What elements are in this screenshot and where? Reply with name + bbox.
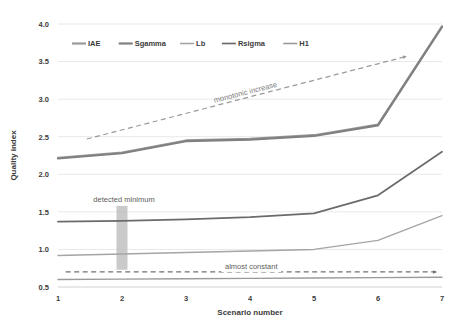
- x-tick-label: 1: [56, 294, 60, 303]
- y-tick-label: 2.5: [39, 133, 49, 142]
- detected-minimum-band: [117, 206, 128, 270]
- legend-label: IAE: [88, 39, 101, 48]
- y-tick-label: 3.0: [39, 95, 49, 104]
- y-axis-title: Quality index: [9, 130, 18, 181]
- x-tick-label: 7: [440, 294, 444, 303]
- x-tick-label: 6: [376, 294, 380, 303]
- x-tick-label: 5: [312, 294, 316, 303]
- y-tick-label: 1.5: [39, 208, 49, 217]
- y-tick-label: 4.0: [39, 20, 49, 29]
- chart-canvas: 0.51.01.52.02.53.03.54.0 1234567 monoton…: [0, 0, 450, 320]
- y-tick-label: 2.0: [39, 170, 49, 179]
- legend-label: H1: [299, 39, 309, 48]
- annotation-label-detected-minimum: detected minimum: [93, 195, 154, 204]
- highlight-band-rect: [117, 206, 128, 270]
- legend-label: Sgamma: [135, 39, 167, 48]
- y-tick-label: 0.5: [39, 283, 49, 292]
- x-axis-title: Scenario number: [217, 308, 282, 317]
- x-tick-label: 3: [184, 294, 188, 303]
- x-tick-label: 2: [120, 294, 124, 303]
- y-tick-label: 3.5: [39, 57, 49, 66]
- legend-label: Rsigma: [238, 39, 266, 48]
- legend-label: Lb: [196, 39, 206, 48]
- annotation-label-almost-constant: almost constant: [225, 262, 278, 271]
- line-chart: 0.51.01.52.02.53.03.54.0 1234567 monoton…: [0, 0, 450, 320]
- y-tick-label: 1.0: [39, 245, 49, 254]
